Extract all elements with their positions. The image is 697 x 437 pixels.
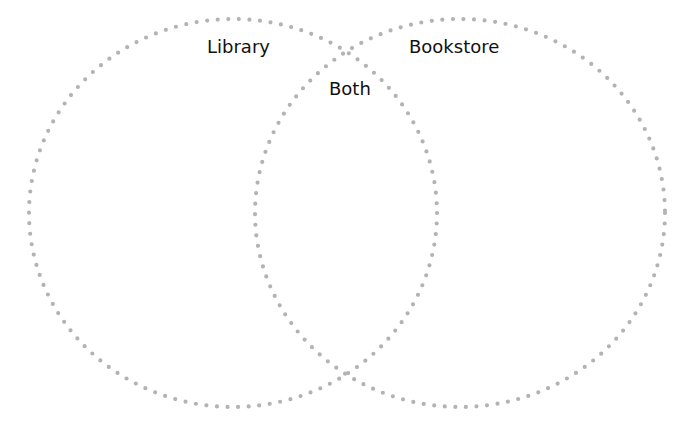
- bookstore-label: Bookstore: [409, 38, 499, 56]
- both-label: Both: [329, 80, 371, 98]
- bookstore-circle: [255, 19, 665, 407]
- venn-diagram: [0, 0, 697, 437]
- library-label: Library: [207, 38, 270, 56]
- library-circle: [29, 19, 437, 407]
